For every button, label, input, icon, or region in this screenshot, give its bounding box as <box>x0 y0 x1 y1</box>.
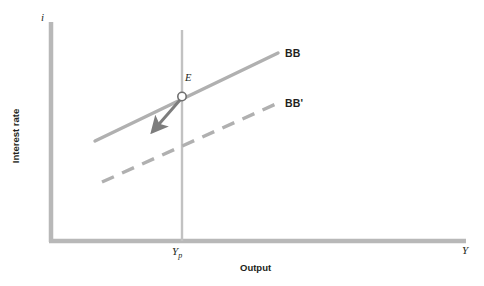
y-axis-symbol: i <box>41 11 44 23</box>
bb-curve-diagram: i Y Interest rate Output BB BB' E Yp <box>0 0 484 286</box>
potential-output-subscript: p <box>178 251 182 260</box>
equilibrium-point-label: E <box>185 72 191 83</box>
x-axis-symbol: Y <box>462 244 468 256</box>
y-axis-title: Interest rate <box>6 96 24 176</box>
bb-prime-curve <box>102 103 278 182</box>
equilibrium-point-marker <box>178 92 186 100</box>
shift-arrow <box>153 100 180 131</box>
x-axis-title: Output <box>240 262 271 273</box>
y-axis-title-text: Interest rate <box>10 109 21 163</box>
diagram-canvas <box>0 0 484 286</box>
bb-curve-label: BB <box>285 47 301 59</box>
bb-prime-curve-label: BB' <box>285 97 303 109</box>
potential-output-tick-label: Yp <box>172 245 182 260</box>
